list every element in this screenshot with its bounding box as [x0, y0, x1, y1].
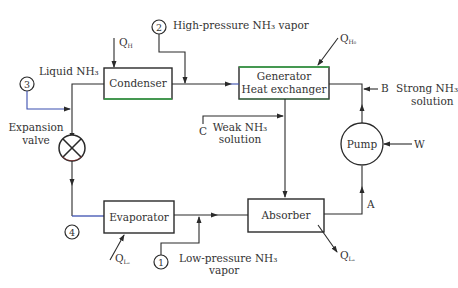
- evaporator-label: Evaporator: [109, 211, 170, 223]
- strong-solution-label-1: Strong NH₃: [396, 82, 458, 94]
- qla-arrow: [318, 225, 337, 252]
- point-b-label: B: [381, 82, 389, 94]
- high-pressure-vapor-label: High-pressure NH₃ vapor: [173, 19, 310, 31]
- qla-label: QLₐ: [340, 249, 356, 262]
- svg-text:1: 1: [158, 257, 164, 268]
- generator-label: Generator: [257, 70, 312, 82]
- weak-solution-label-2: solution: [219, 133, 262, 145]
- absorber-label: Absorber: [261, 209, 312, 221]
- evaporator-box: Evaporator: [104, 201, 174, 233]
- liquid-nh3-label: Liquid NH₃: [39, 65, 99, 77]
- qle-label: QLₑ: [115, 252, 131, 265]
- qhg-arrow: [318, 38, 338, 65]
- point-c-label: C: [199, 125, 207, 137]
- strong-solution-line-a: [324, 166, 362, 214]
- heat-exchanger-label: Heat exchanger: [242, 83, 328, 95]
- qh-label: QH: [119, 36, 133, 49]
- strong-solution-line-b: [329, 84, 362, 123]
- generator-heat-exchanger-box: Generator Heat exchanger: [239, 67, 329, 99]
- liquid-line: [72, 84, 104, 138]
- expansion-valve: [59, 135, 85, 161]
- pump: Pump: [341, 123, 383, 165]
- qhg-label: QH₀: [340, 32, 357, 45]
- absorber-box: Absorber: [248, 199, 324, 232]
- point-a-label: A: [366, 198, 375, 210]
- condenser-box: Condenser: [104, 68, 172, 99]
- svg-text:4: 4: [69, 227, 75, 238]
- condenser-label: Condenser: [109, 77, 167, 89]
- strong-solution-label-2: solution: [411, 95, 454, 107]
- low-pressure-label-2: vapor: [208, 264, 240, 276]
- expansion-label: Expansion: [8, 121, 63, 133]
- work-label: W: [414, 138, 425, 150]
- absorption-refrigeration-diagram: Condenser QH Generator Heat exchanger QH…: [0, 0, 458, 288]
- low-pressure-label-1: Low-pressure NH₃: [179, 252, 277, 264]
- svg-text:3: 3: [24, 79, 30, 90]
- svg-text:2: 2: [156, 22, 162, 33]
- weak-solution-label-1: Weak NH₃: [213, 121, 268, 133]
- pump-label: Pump: [347, 138, 378, 150]
- valve-label: valve: [21, 134, 50, 146]
